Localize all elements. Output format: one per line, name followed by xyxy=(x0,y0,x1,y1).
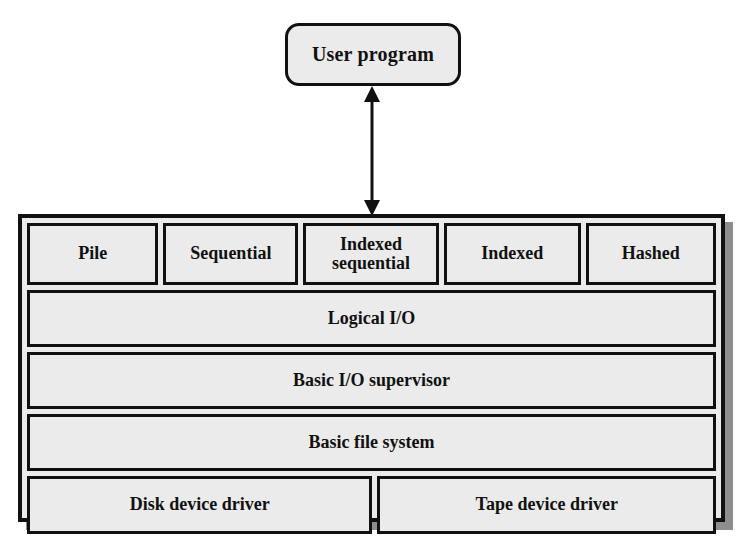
logical-io-row: Logical I/O xyxy=(27,290,716,347)
access-method-hashed-label: Hashed xyxy=(622,244,680,263)
disk-device-driver-label: Disk device driver xyxy=(130,495,270,514)
tape-device-driver-cell: Tape device driver xyxy=(377,476,716,534)
access-method-sequential-label: Sequential xyxy=(190,244,271,263)
access-method-indexed-sequential-label: Indexed sequential xyxy=(332,235,410,274)
file-system-architecture-diagram: User program Pile Sequential Indexed seq… xyxy=(0,0,744,544)
user-program-box: User program xyxy=(285,23,461,86)
user-program-label: User program xyxy=(312,43,434,66)
access-method-indexed-sequential: Indexed sequential xyxy=(303,223,438,285)
access-method-indexed: Indexed xyxy=(444,223,581,285)
access-methods-row: Pile Sequential Indexed sequential Index… xyxy=(27,223,716,285)
access-method-indexed-label: Indexed xyxy=(481,244,543,263)
access-method-pile: Pile xyxy=(27,223,158,285)
access-method-sequential: Sequential xyxy=(163,223,298,285)
access-method-pile-label: Pile xyxy=(78,244,107,263)
basic-io-supervisor-label: Basic I/O supervisor xyxy=(293,371,450,390)
basic-io-supervisor-cell: Basic I/O supervisor xyxy=(27,352,716,409)
disk-device-driver-cell: Disk device driver xyxy=(27,476,372,534)
logical-io-label: Logical I/O xyxy=(328,309,416,328)
bidirectional-arrow-icon xyxy=(358,86,386,216)
basic-file-system-cell: Basic file system xyxy=(27,414,716,471)
logical-io-cell: Logical I/O xyxy=(27,290,716,347)
access-method-indexed-sequential-line1: Indexed xyxy=(340,234,402,254)
basic-file-system-row: Basic file system xyxy=(27,414,716,471)
access-method-hashed: Hashed xyxy=(586,223,716,285)
file-system-stack: Pile Sequential Indexed sequential Index… xyxy=(18,214,725,522)
device-drivers-row: Disk device driver Tape device driver xyxy=(27,476,716,534)
access-method-indexed-sequential-line2: sequential xyxy=(332,253,410,273)
tape-device-driver-label: Tape device driver xyxy=(476,495,618,514)
basic-file-system-label: Basic file system xyxy=(309,433,435,452)
basic-io-supervisor-row: Basic I/O supervisor xyxy=(27,352,716,409)
